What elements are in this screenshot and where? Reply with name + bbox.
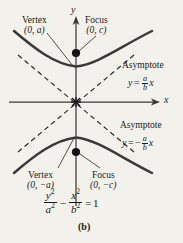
term1-den-exp: 2 (51, 201, 55, 210)
asym-neg-equals: = (126, 137, 135, 148)
equation-equals: = (84, 197, 93, 209)
label-focus-bottom: Focus (0, −c) (90, 170, 116, 191)
asym-neg-sign: − (135, 137, 141, 148)
label-asymptote-top: Asymptote (122, 60, 164, 70)
asym-pos-variable: x (149, 77, 153, 88)
hyperbola-equation: y2 a2 − x2 b2 =1 (42, 190, 98, 215)
leader-focus-bottom (80, 154, 100, 168)
asym-neg-denominator: b (142, 143, 148, 153)
focus-point-bottom (72, 148, 80, 156)
equation-rhs: 1 (93, 197, 99, 209)
asym-neg-numerator: a (142, 135, 148, 143)
term2-denominator: b2 (69, 202, 82, 215)
label-asymptote-bottom: Asymptote (120, 120, 162, 130)
vertex-bottom-title: Vertex (27, 170, 54, 180)
term1-num-exp: 2 (51, 187, 55, 196)
asym-neg-variable: x (149, 137, 153, 148)
term2-numerator: x2 (69, 190, 82, 202)
y-axis-label: y (71, 5, 75, 16)
asym-pos-fraction: ab (142, 75, 148, 93)
asym-neg-fraction: ab (142, 135, 148, 153)
asym-pos-equals: = (132, 77, 141, 88)
asym-pos-numerator: a (142, 75, 148, 83)
equation-asymptote-positive: y=abx (128, 75, 154, 93)
focus-bottom-coords: (0, −c) (90, 180, 116, 190)
focus-bottom-title: Focus (90, 170, 116, 180)
vertex-top-title: Vertex (22, 15, 47, 25)
x-axis-label: x (164, 95, 168, 106)
label-vertex-top: Vertex (0, a) (22, 15, 47, 36)
equation-term-1: y2 a2 (44, 190, 57, 215)
vertex-top-coords: (0, a) (22, 25, 47, 35)
term2-num-exp: 2 (76, 187, 80, 196)
term1-numerator: y2 (44, 190, 57, 202)
equation-asymptote-negative: y=−abx (122, 135, 153, 153)
term2-den-exp: 2 (76, 201, 80, 210)
origin-marker (71, 97, 81, 107)
focus-top-title: Focus (85, 15, 108, 25)
asym-pos-denominator: b (142, 83, 148, 93)
equation-operator: − (58, 197, 67, 209)
term1-denominator: a2 (44, 202, 57, 215)
hyperbola-figure: Vertex (0, a) Focus (0, c) Vertex (0, −a… (0, 0, 183, 243)
figure-caption: (b) (78, 222, 90, 233)
label-focus-top: Focus (0, c) (85, 15, 108, 36)
focus-point-top (72, 49, 80, 57)
equation-term-2: x2 b2 (69, 190, 82, 215)
focus-top-coords: (0, c) (85, 25, 108, 35)
leader-focus-top (79, 36, 96, 51)
